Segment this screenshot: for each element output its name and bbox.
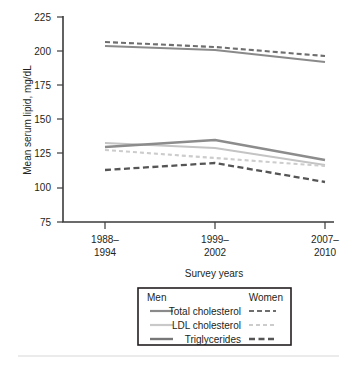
axis-lines (63, 16, 334, 222)
legend-header-men: Men (147, 292, 166, 303)
lipid-trend-figure: 225 200 175 150 125 100 75 (0, 0, 357, 366)
x-tick-label-line2: 2002 (204, 247, 227, 258)
y-tick-label: 100 (34, 182, 51, 193)
y-tick-label: 150 (34, 114, 51, 125)
y-tick-label: 225 (34, 12, 51, 23)
y-axis-tick-labels: 225 200 175 150 125 100 75 (34, 12, 51, 228)
x-axis-title: Survey years (185, 268, 243, 279)
x-tick-label-line2: 2010 (314, 247, 337, 258)
y-tick-label: 125 (34, 148, 51, 159)
x-tick-label-line1: 1988– (91, 234, 119, 245)
legend-header-women: Women (249, 292, 283, 303)
legend: Men Women Total cholesterol LDL choleste… (138, 288, 291, 345)
series-triglycerides-women (105, 163, 325, 182)
line-chart: 225 200 175 150 125 100 75 (0, 0, 357, 366)
y-axis-tick-marks (57, 17, 63, 222)
legend-label: LDL cholesterol (172, 320, 241, 331)
series-triglycerides-men (105, 140, 325, 160)
legend-label: Total cholesterol (169, 306, 241, 317)
x-tick-label-line1: 2007– (311, 234, 339, 245)
y-tick-label: 75 (40, 217, 52, 228)
y-tick-label: 175 (34, 80, 51, 91)
x-axis-tick-marks (105, 222, 325, 229)
y-tick-label: 200 (34, 46, 51, 57)
x-tick-label-line1: 1999– (201, 234, 229, 245)
y-axis-title: Mean serum lipid, mg/dL (22, 65, 33, 175)
legend-label: Triglycerides (185, 334, 241, 345)
x-axis-tick-labels: 1988– 1994 1999– 2002 2007– 2010 (91, 234, 339, 258)
x-tick-label-line2: 1994 (94, 247, 117, 258)
